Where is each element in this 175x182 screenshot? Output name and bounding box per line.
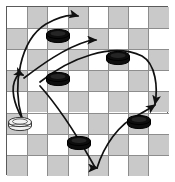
white-checker[interactable] xyxy=(7,117,33,132)
black-checker[interactable] xyxy=(45,72,71,87)
checkers-diagram xyxy=(0,0,175,182)
black-checker[interactable] xyxy=(45,29,71,44)
black-checker[interactable] xyxy=(105,51,131,66)
black-checker[interactable] xyxy=(66,136,92,151)
black-checker[interactable] xyxy=(126,115,152,130)
arrow-overlay xyxy=(0,0,175,182)
jump-path-to-bottom-arrow xyxy=(40,86,97,168)
